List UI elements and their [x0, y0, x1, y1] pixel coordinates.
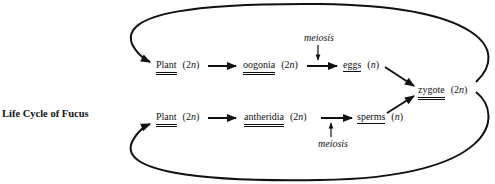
ploidy-variable: n: [371, 59, 376, 70]
node-antheridia: antheridia(2n): [244, 111, 307, 122]
fucus-life-cycle-diagram: Life Cycle of Fucus Plant(2n) oogonia(2n…: [0, 0, 495, 184]
meiosis-label-bottom: meiosis: [318, 138, 348, 149]
node-eggs: eggs(n): [343, 59, 379, 70]
node-oogonia: oogonia(2n): [243, 59, 298, 70]
ploidy-variable: n: [395, 111, 400, 122]
ploidy-variable: n: [290, 59, 295, 70]
node-label: zygote: [418, 84, 445, 95]
loop-arrow-bottom: [131, 92, 489, 180]
ploidy-variable: n: [191, 111, 196, 122]
ploidy-variable: n: [191, 59, 196, 70]
node-label: Plant: [156, 111, 177, 122]
diagram-title: Life Cycle of Fucus: [2, 108, 89, 119]
node-sperms: sperms(n): [357, 111, 403, 122]
arrow-eggs-zygote: [385, 67, 414, 86]
ploidy-variable: n: [459, 84, 464, 95]
node-zygote: zygote(2n): [418, 84, 467, 95]
meiosis-label-top: meiosis: [304, 32, 334, 43]
node-plant-top: Plant(2n): [156, 59, 199, 70]
node-label: antheridia: [244, 111, 284, 122]
ploidy-variable: n: [298, 111, 303, 122]
node-label: eggs: [343, 59, 361, 70]
node-label: Plant: [156, 59, 177, 70]
node-label: sperms: [357, 111, 385, 122]
node-plant-bottom: Plant(2n): [156, 111, 199, 122]
node-label: oogonia: [243, 59, 275, 70]
